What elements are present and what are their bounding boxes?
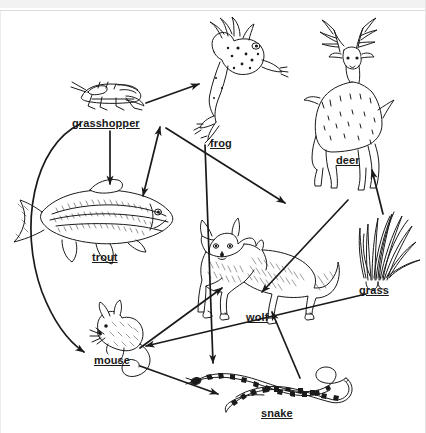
arrow-snake-to-wolf — [272, 312, 300, 378]
diagram-page: grasshopper frog deer trout wolf grass m… — [0, 0, 426, 433]
snake-illustration — [186, 367, 352, 412]
frog-illustration — [194, 17, 288, 146]
label-mouse: mouse — [94, 354, 130, 366]
label-frog: frog — [210, 137, 232, 149]
label-trout: trout — [92, 251, 118, 263]
label-deer: deer — [336, 154, 360, 166]
label-wolf: wolf — [246, 311, 268, 323]
wolf-illustration — [198, 218, 339, 324]
arrow-grasshopper-to-frog — [146, 84, 199, 103]
label-grass: grass — [359, 284, 389, 296]
grasshopper-illustration — [71, 82, 144, 110]
label-grasshopper: grasshopper — [72, 117, 140, 129]
food-web-diagram — [0, 0, 426, 433]
arrow-grass-to-grasshopper — [143, 127, 160, 196]
arrow-mouse-to-wolf — [140, 288, 222, 348]
arrow-mouse-to-snake — [140, 366, 218, 394]
label-snake: snake — [261, 407, 293, 419]
arrow-grass-to-deer — [372, 170, 383, 214]
grass-illustration — [359, 212, 420, 290]
